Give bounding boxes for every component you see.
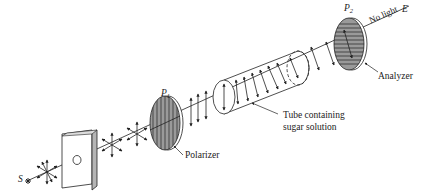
rotated-light-arrows (311, 42, 334, 70)
analyzer-leader (365, 63, 378, 72)
polarizer-label: Polarizer (185, 151, 219, 161)
pinhole (73, 156, 81, 165)
p1-label: P1 (161, 89, 170, 100)
sugar-solution-tube (213, 51, 309, 114)
p2-subscript: 2 (350, 7, 353, 14)
analyzer-filter (330, 18, 370, 70)
tube-leader (252, 103, 278, 114)
polarimeter-diagram (0, 0, 440, 193)
end-label: E (402, 5, 408, 15)
tube-label-line1: Tube containing (283, 111, 345, 121)
polarizer-filter (150, 90, 183, 156)
source-label: S (18, 175, 23, 185)
aperture-plate (62, 130, 97, 190)
polarized-light-arrows (191, 91, 206, 126)
analyzer-label: Analyzer (378, 72, 413, 82)
tube-label-line2: sugar solution (283, 123, 337, 133)
polarizer-leader (174, 146, 183, 155)
source-star-icon (25, 178, 31, 184)
p1-subscript: 1 (167, 92, 170, 99)
p2-label: P2 (344, 4, 353, 15)
unpolarized-light-icon (37, 160, 57, 184)
